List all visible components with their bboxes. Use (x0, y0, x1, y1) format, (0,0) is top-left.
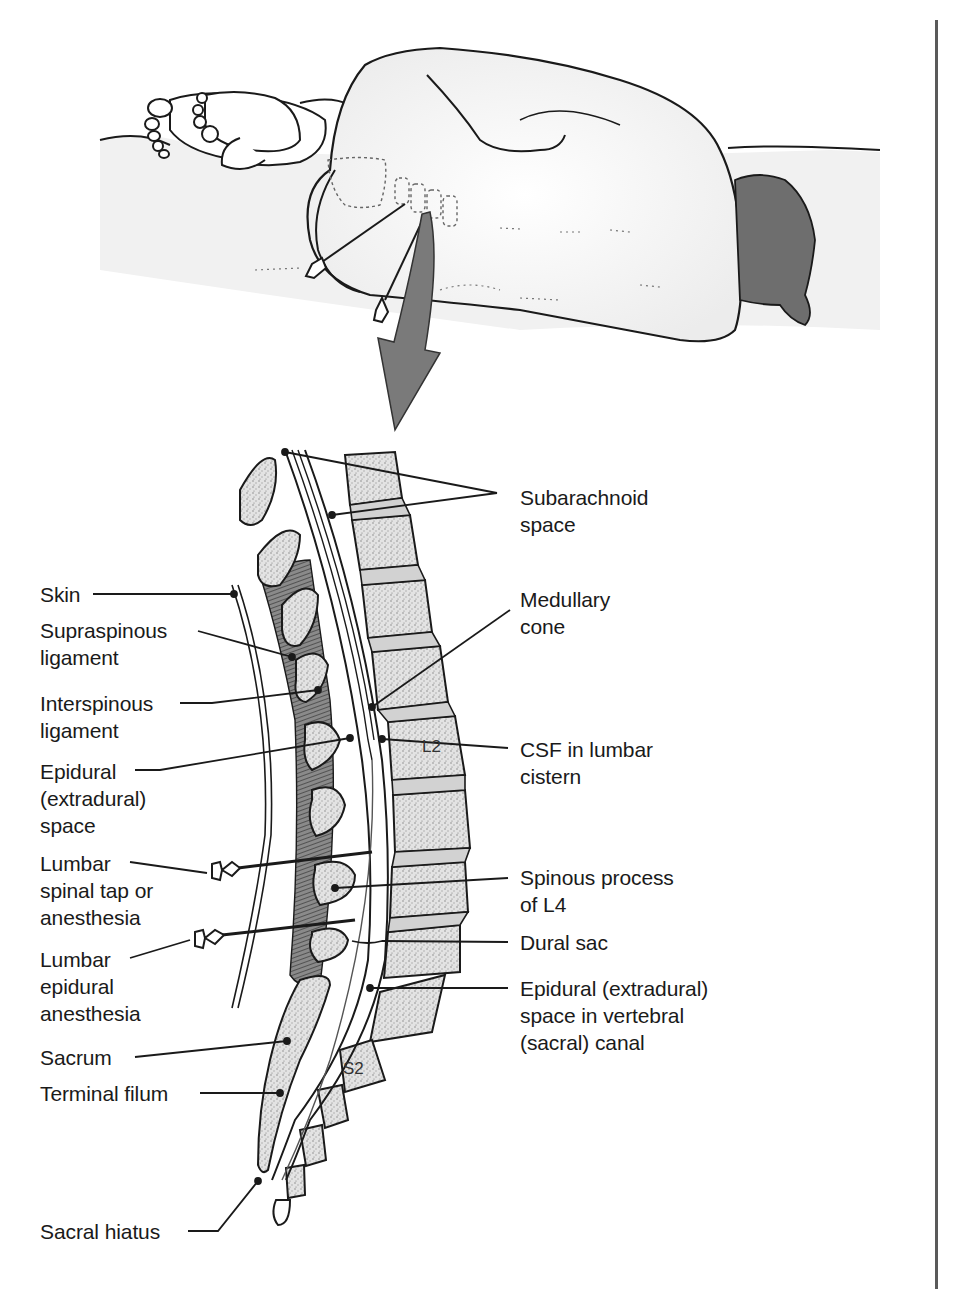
label-spinous-process-l4: Spinous process of L4 (520, 864, 674, 918)
label-skin: Skin (40, 581, 80, 608)
figure-canvas: L2 S2 Skin Supraspinous ligament Intersp… (0, 0, 962, 1289)
sagittal-section: L2 S2 (93, 449, 510, 1231)
label-sacral-hiatus: Sacral hiatus (40, 1218, 160, 1245)
label-interspinous-ligament: Interspinous ligament (40, 690, 153, 744)
label-terminal-filum: Terminal filum (40, 1080, 168, 1107)
label-subarachnoid-space: Subarachnoid space (520, 484, 648, 538)
label-sacrum: Sacrum (40, 1044, 112, 1071)
label-csf-lumbar-cistern: CSF in lumbar cistern (520, 736, 653, 790)
patient-illustration (100, 48, 880, 430)
label-medullary-cone: Medullary cone (520, 586, 610, 640)
label-supraspinous-ligament: Supraspinous ligament (40, 617, 167, 671)
vertebra-label-l2: L2 (422, 737, 441, 756)
label-epidural-sacral-canal: Epidural (extradural) space in vertebral… (520, 975, 708, 1056)
spinous-process-l4 (313, 862, 355, 905)
label-epidural-space: Epidural (extradural) space (40, 758, 146, 839)
vertebra-label-s2: S2 (343, 1059, 364, 1078)
label-lumbar-epidural-anesthesia: Lumbar epidural anesthesia (40, 946, 141, 1027)
label-dural-sac: Dural sac (520, 929, 608, 956)
label-lumbar-spinal-tap: Lumbar spinal tap or anesthesia (40, 850, 153, 931)
page-border-line (935, 20, 938, 1289)
